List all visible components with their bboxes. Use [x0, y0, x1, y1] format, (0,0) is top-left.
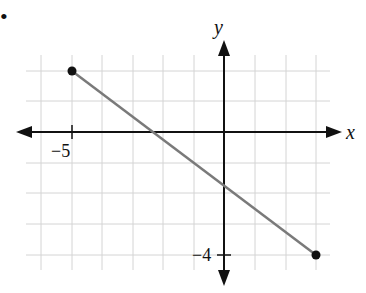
y-axis-up-arrow-icon — [218, 40, 230, 56]
y-axis-label: y — [212, 16, 223, 39]
y-tick-label-minus4: −4 — [192, 245, 211, 265]
endpoint-start — [68, 67, 77, 76]
x-axis-right-arrow-icon — [326, 126, 342, 138]
x-axis-left-arrow-icon — [16, 126, 32, 138]
coordinate-plane: y x −5 −4 — [0, 0, 366, 293]
x-axis-label: x — [345, 121, 355, 143]
x-tick-label-minus5: −5 — [51, 141, 70, 161]
x-axis — [16, 125, 342, 139]
y-axis-down-arrow-icon — [218, 270, 230, 286]
grid-lines — [26, 55, 330, 270]
endpoint-end — [312, 251, 321, 260]
